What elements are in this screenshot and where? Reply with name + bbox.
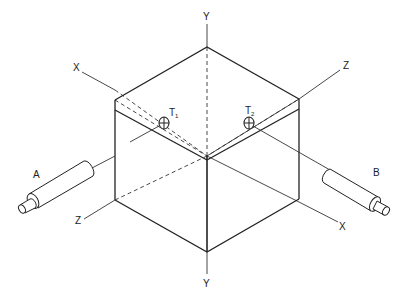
x-left-label: X bbox=[73, 62, 80, 73]
x-axis: X X bbox=[73, 62, 346, 232]
y-top-label: Y bbox=[203, 11, 210, 22]
cube-diagram: Y Y X X Z Z bbox=[0, 0, 409, 304]
z-right-label: Z bbox=[343, 60, 349, 71]
heater-b: B bbox=[322, 167, 390, 216]
x-right-label: X bbox=[339, 221, 346, 232]
z-left-label: Z bbox=[75, 215, 81, 226]
y-bottom-label: Y bbox=[203, 278, 210, 289]
b-label: B bbox=[373, 167, 380, 178]
t1-label: T1 bbox=[169, 107, 179, 119]
a-label: A bbox=[33, 169, 40, 180]
thermocouple-t1: T1 bbox=[130, 107, 179, 142]
thermocouple-t2: T2 bbox=[244, 105, 330, 170]
heater-a: A bbox=[17, 156, 115, 214]
t2-label: T2 bbox=[245, 105, 255, 117]
